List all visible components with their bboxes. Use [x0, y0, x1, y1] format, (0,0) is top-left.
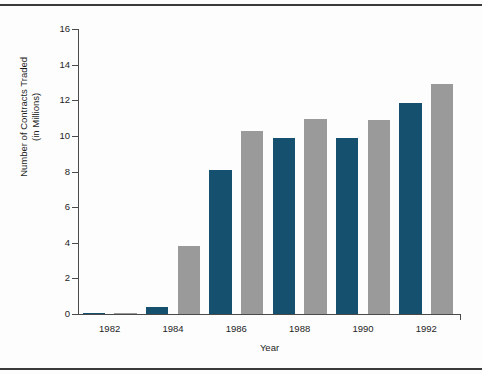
chart-figure: 0246810121416 198219841986198819901992 N…	[0, 0, 482, 374]
y-tick-label-2: 2	[30, 273, 70, 283]
bar-1992	[399, 103, 421, 314]
plot-area	[78, 29, 458, 314]
x-axis-end-tick	[460, 315, 461, 320]
x-tick-label-1986: 1986	[206, 324, 266, 334]
top-divider-rule	[0, 4, 482, 6]
bar-1988	[273, 138, 295, 314]
y-tick-label-wrap-4: 4	[26, 238, 70, 248]
x-tick-label-1988: 1988	[270, 324, 330, 334]
bar-1990	[336, 138, 358, 314]
bar-1982	[83, 313, 105, 314]
y-tick-label-0: 0	[30, 309, 70, 319]
y-tick-label-wrap-6: 6	[26, 202, 70, 212]
x-tick-label-1984: 1984	[143, 324, 203, 334]
bottom-divider-rule	[0, 368, 482, 370]
x-tick-label-1990: 1990	[333, 324, 393, 334]
bar-1984	[146, 307, 168, 314]
bar-1991	[368, 120, 390, 314]
x-tick-label-1992: 1992	[396, 324, 456, 334]
x-axis-title: Year	[78, 342, 461, 353]
bar-1987	[241, 131, 263, 314]
y-tick-label-16: 16	[30, 24, 70, 34]
y-axis-title-line2: (in Millions)	[30, 37, 42, 197]
x-axis-line	[78, 314, 461, 315]
bar-1983	[114, 313, 136, 314]
y-tick-label-wrap-2: 2	[26, 273, 70, 283]
y-tick-label-wrap-16: 16	[26, 24, 70, 34]
bar-1993	[431, 84, 453, 314]
bar-1989	[304, 119, 326, 314]
y-axis-title: Number of Contracts Traded (in Millions)	[18, 37, 42, 197]
y-axis-title-line1: Number of Contracts Traded	[18, 57, 29, 177]
x-tick-label-1982: 1982	[80, 324, 140, 334]
y-tick-label-wrap-0: 0	[26, 309, 70, 319]
y-tick-0	[72, 314, 79, 315]
bar-1986	[209, 170, 231, 314]
bar-1985	[178, 246, 200, 314]
y-tick-label-6: 6	[30, 202, 70, 212]
y-tick-label-4: 4	[30, 238, 70, 248]
